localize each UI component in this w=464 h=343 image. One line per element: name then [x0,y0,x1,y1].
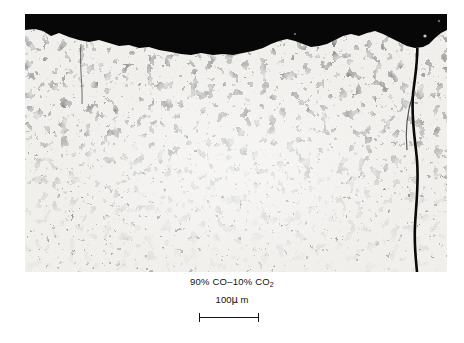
figure-page: 90% CO–10% CO2 100μ m [0,0,464,343]
gas-subscript: 2 [270,281,274,288]
gas-suffix: 10% CO [233,276,270,287]
band-inclusion [294,33,296,35]
scale-unit: m [238,294,249,305]
gas-prefix: 90% CO [190,276,227,287]
scale-value: 100 [216,294,232,305]
micrograph-image [25,14,447,272]
gas-composition-caption: 90% CO–10% CO2 [0,276,464,291]
scale-bar-right-cap [258,313,259,322]
scale-bar-rule [199,317,259,318]
figure-caption-block: 90% CO–10% CO2 100μ m [0,276,464,321]
scale-bar-container [0,309,464,321]
band-inclusion [423,34,426,37]
scale-bar [199,313,259,322]
scale-bar-label: 100μ m [0,294,464,306]
micrograph-canvas [25,14,447,272]
band-inclusion [438,20,440,22]
